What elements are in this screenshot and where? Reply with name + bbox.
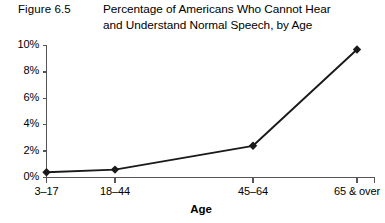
y-axis-tick-label: 4% [1,117,39,129]
series-polyline [47,49,358,172]
data-point-markers [42,45,361,176]
figure-container: Figure 6.5 Percentage of Americans Who C… [0,0,385,223]
y-axis-tick-label: 2% [1,144,39,156]
data-point-marker [42,168,50,176]
y-axis-tick-label: 10% [1,38,39,50]
data-point-marker [111,165,119,173]
x-axis-tick-label: 3–17 [34,185,58,197]
x-axis-tick-label: 18–44 [100,185,130,197]
y-axis-tick-label: 6% [1,91,39,103]
x-axis-tick-label: 45–64 [238,185,268,197]
x-axis-title: Age [190,203,212,215]
y-axis-tick-label: 8% [1,64,39,76]
y-axis-tick-label: 0% [1,170,39,182]
chart-axes [43,46,376,183]
x-axis-tick-label: 65 & over [334,185,380,197]
data-series-line [47,49,358,172]
